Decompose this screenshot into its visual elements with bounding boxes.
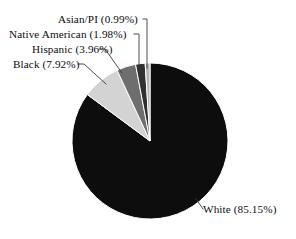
pie-label-white: White (85.15%) (203, 203, 276, 215)
pie-label-hispanic: Hispanic (3.96%) (32, 43, 113, 55)
pie-slices (72, 63, 228, 219)
pie-label-black: Black (7.92%) (13, 58, 80, 70)
pie-label-native-american: Native American (1.98%) (9, 28, 127, 40)
pie-label-asian-pi: Asian/PI (0.99%) (58, 13, 138, 25)
leader-line-asian (143, 19, 147, 68)
pie-chart-figure: Asian/PI (0.99%) Native American (1.98%)… (0, 0, 296, 239)
